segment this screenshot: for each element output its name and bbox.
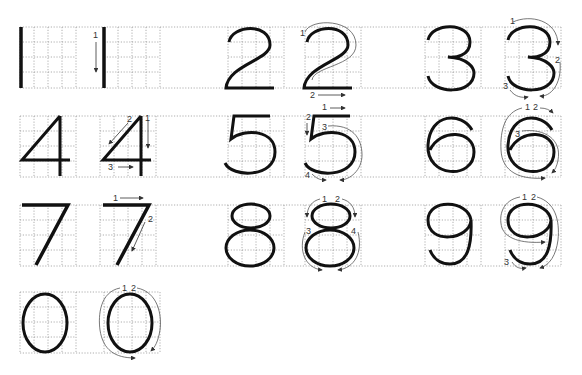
stroke-order-label: 4: [351, 226, 356, 236]
stroke-order-label: 2: [533, 102, 538, 112]
stroke-order-label: 1: [525, 102, 530, 112]
stroke-order-label: 2: [531, 192, 536, 202]
stroke-order-label: 3: [515, 129, 520, 139]
digit-5-model: [225, 116, 275, 173]
digit-4-guided: 2 1 3: [103, 113, 151, 176]
digit-0-guided: 1 2: [99, 283, 160, 358]
stroke-order-label: 3: [503, 81, 508, 91]
stroke-order-label: 2: [131, 283, 136, 293]
stroke-order-label: 2: [555, 55, 560, 65]
stroke-order-label: 1: [300, 28, 305, 38]
digit-9-guided: 1 2 3: [501, 192, 559, 268]
digit-9-model: [428, 204, 471, 264]
digit-7-guided: 1 2: [103, 193, 153, 265]
stroke-order-label: 2: [306, 112, 311, 122]
digit-2-model: [226, 29, 274, 89]
stroke-order-label: 1: [145, 113, 150, 123]
stroke-order-label: 3: [306, 226, 311, 236]
stroke-order-label: 2: [148, 214, 153, 224]
stroke-order-label: 1: [322, 194, 327, 204]
stroke-order-label: 1: [322, 102, 327, 112]
stroke-order-label: 4: [305, 170, 310, 180]
stroke-order-label: 1: [122, 283, 127, 293]
stroke-order-label: 2: [310, 90, 315, 100]
stroke-order-label: 3: [108, 162, 113, 172]
stroke-order-label: 1: [93, 30, 98, 40]
digit-5-guided: 1 2 3 4: [305, 102, 362, 180]
stroke-order-label: 1: [522, 192, 527, 202]
stroke-order-label: 1: [113, 193, 118, 203]
digit-2-guided: 1 2: [300, 23, 356, 100]
stroke-order-label: 2: [335, 194, 340, 204]
practice-grid: [20, 27, 561, 353]
number-practice-sheet: 1 1 2 1 2 3 2 1 3: [0, 0, 582, 375]
stroke-order-label: 2: [127, 114, 132, 124]
digit-6-guided: 1 2 3: [501, 102, 559, 178]
stroke-order-label: 3: [504, 257, 509, 267]
digit-8-model: [226, 204, 274, 266]
digit-0-model: [23, 294, 67, 352]
digit-1-guided: 1: [93, 27, 104, 88]
stroke-order-label: 3: [322, 122, 327, 132]
stroke-order-label: 1: [510, 16, 515, 26]
